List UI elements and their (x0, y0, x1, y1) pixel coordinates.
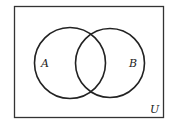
set-b-label: B (128, 57, 137, 70)
set-a-label: A (40, 57, 49, 70)
universe-label: U (150, 103, 160, 116)
venn-diagram: A B U (0, 0, 170, 125)
universe-rectangle (15, 7, 164, 118)
